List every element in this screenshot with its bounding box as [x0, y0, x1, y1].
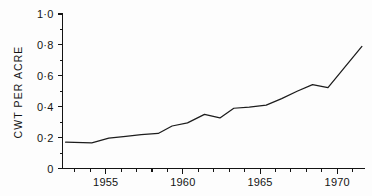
- x-tick-marks: [75, 169, 353, 174]
- y-tick-label: 0·4: [37, 101, 54, 113]
- y-tick-labels: 1·00·80·60·40·20: [37, 8, 54, 175]
- y-tick-label: 0·2: [37, 132, 54, 144]
- y-tick-label: 0·8: [37, 39, 54, 51]
- y-tick-marks: [58, 14, 63, 169]
- y-tick-label: 0: [47, 163, 53, 175]
- x-tick-label: 1955: [93, 176, 118, 188]
- x-tick-labels: 1955196019651970: [93, 176, 350, 188]
- x-tick-label: 1965: [247, 176, 272, 188]
- chart-container: 1·00·80·60·40·20 1955196019651970 CWT PE…: [0, 0, 372, 196]
- line-chart-plot: 1·00·80·60·40·20 1955196019651970 CWT PE…: [0, 0, 372, 196]
- x-tick-label: 1960: [170, 176, 195, 188]
- y-tick-label: 0·6: [37, 70, 54, 82]
- y-axis-title-text: CWT PER ACRE: [12, 46, 24, 139]
- y-tick-label: 1·0: [37, 8, 54, 20]
- data-line-series-0: [66, 46, 362, 142]
- y-axis-title: CWT PER ACRE: [12, 46, 24, 139]
- data-series-group: [66, 46, 362, 142]
- x-tick-label: 1970: [325, 176, 350, 188]
